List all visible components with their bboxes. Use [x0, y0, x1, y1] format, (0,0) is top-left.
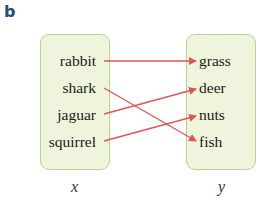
arrow-squirrel-nuts	[104, 116, 196, 141]
codomain-set-label: y	[218, 178, 225, 196]
arrow-jaguar-deer	[104, 89, 196, 114]
mapping-arrows	[0, 0, 268, 206]
domain-set-label: x	[71, 178, 78, 196]
arrow-shark-fish	[104, 88, 196, 141]
